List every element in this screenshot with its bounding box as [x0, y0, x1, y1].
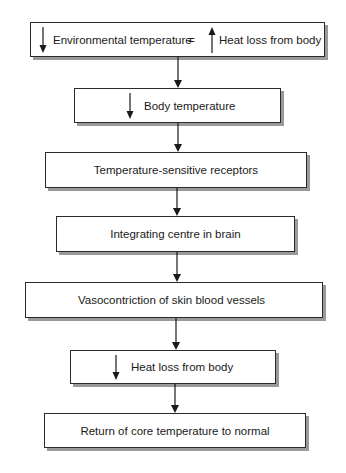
- node-label: Body temperature: [144, 100, 235, 112]
- node-label: Heat loss from body: [131, 361, 233, 373]
- node-label: Return of core temperature to normal: [45, 425, 305, 437]
- flow-node-vasoconstriction: Vasocontriction of skin blood vessels: [25, 282, 323, 318]
- down-arrow-icon: [112, 355, 120, 380]
- down-arrow-icon: [126, 93, 134, 119]
- connector-arrow: [172, 188, 182, 216]
- node-label: Environmental temperature: [53, 34, 192, 46]
- flow-node-integrating-centre: Integrating centre in brain: [56, 216, 295, 252]
- node-label-secondary: Heat loss from body: [219, 34, 321, 46]
- equals-sign: =: [188, 34, 195, 46]
- node-label: Temperature-sensitive receptors: [46, 164, 306, 176]
- flow-node-heat-loss-decrease: Heat loss from body: [70, 350, 276, 384]
- down-arrow-icon: [39, 27, 47, 53]
- up-arrow-icon: [208, 27, 216, 53]
- connector-arrow: [170, 384, 180, 413]
- flow-node-temperature-receptors: Temperature-sensitive receptors: [45, 152, 307, 188]
- flow-node-environmental-temperature: Environmental temperature = Heat loss fr…: [30, 22, 325, 57]
- flow-node-return-to-normal: Return of core temperature to normal: [44, 413, 306, 448]
- flow-node-body-temperature: Body temperature: [74, 88, 281, 123]
- connector-arrow: [173, 57, 183, 88]
- connector-arrow: [172, 252, 182, 282]
- node-label: Vasocontriction of skin blood vessels: [78, 294, 265, 306]
- connector-arrow: [171, 318, 181, 350]
- node-label: Integrating centre in brain: [57, 228, 294, 240]
- connector-arrow: [173, 123, 183, 152]
